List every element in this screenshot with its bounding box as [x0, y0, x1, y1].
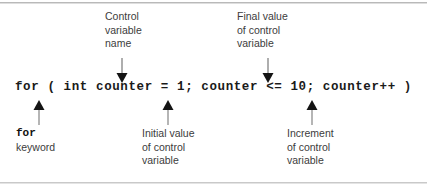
- label-final-value-of-control-variable: Final value of control variable: [237, 10, 337, 51]
- label-for-keyword-token: for: [16, 127, 96, 141]
- arrow-up-to-initial-value: [160, 99, 176, 125]
- for-statement-code: for ( int counter = 1; counter <= 10; co…: [0, 80, 427, 94]
- label-control-variable-name: Control variable name: [105, 10, 200, 51]
- label-increment-of-control-variable: Increment of control variable: [287, 127, 387, 168]
- label-initial-value-of-control-variable: Initial value of control variable: [142, 127, 242, 168]
- label-for-keyword-group: for keyword: [16, 127, 96, 154]
- label-for-keyword-text: keyword: [16, 141, 96, 155]
- for-statement-annotated-diagram: Control variable name Final value of con…: [0, 0, 427, 188]
- top-divider-rule-shadow: [0, 3, 427, 4]
- bottom-divider-rule-shadow: [0, 183, 427, 184]
- arrow-up-to-increment: [304, 99, 320, 125]
- arrow-up-to-for-keyword: [31, 99, 47, 125]
